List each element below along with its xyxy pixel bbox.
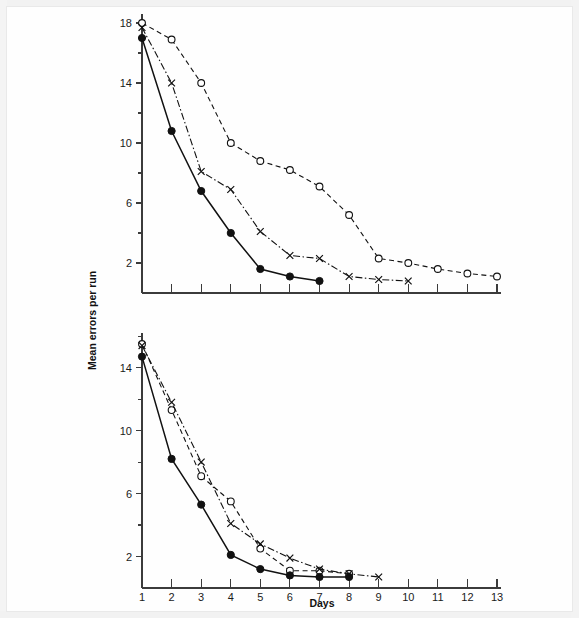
x-axis-tick-label: 10 xyxy=(402,591,414,603)
x-axis-tick-label: 13 xyxy=(491,591,503,603)
data-point-open-circle xyxy=(405,260,412,267)
data-point-filled-circle xyxy=(257,566,264,573)
data-point-cross xyxy=(375,276,382,283)
data-point-open-circle xyxy=(198,80,205,87)
y-axis-tick-label: 14 xyxy=(120,362,132,374)
x-axis-tick-label: 3 xyxy=(198,591,204,603)
data-point-open-circle xyxy=(257,158,264,165)
data-point-open-circle xyxy=(494,273,501,280)
series-line-filled-circle-group xyxy=(142,357,349,577)
data-point-filled-circle xyxy=(168,127,175,134)
data-point-cross xyxy=(168,399,175,406)
data-point-cross xyxy=(257,228,264,235)
learning-curve-figure: Mean errors per run 26101418 26101412345… xyxy=(0,0,579,618)
data-point-filled-circle xyxy=(286,273,293,280)
data-point-filled-circle xyxy=(198,501,205,508)
data-point-cross xyxy=(287,252,294,259)
data-point-filled-circle xyxy=(257,265,264,272)
y-axis-tick-label: 6 xyxy=(126,197,132,209)
data-point-open-circle xyxy=(434,266,441,273)
y-axis-tick-label: 18 xyxy=(120,17,132,29)
upper-chart-panel: 26101418 xyxy=(120,14,501,293)
y-axis-title: Mean errors per run xyxy=(86,271,98,370)
x-axis-tick-label: 12 xyxy=(461,591,473,603)
x-axis-tick-label: 5 xyxy=(257,591,263,603)
y-axis-tick-label: 14 xyxy=(120,77,132,89)
data-point-open-circle xyxy=(287,167,294,174)
x-axis-tick-label: 6 xyxy=(287,591,293,603)
x-axis-title: Days xyxy=(309,597,334,609)
y-axis-tick-label: 2 xyxy=(126,551,132,563)
x-axis-tick-label: 9 xyxy=(376,591,382,603)
figure-page: Mean errors per run 26101418 26101412345… xyxy=(0,0,579,618)
data-point-filled-circle xyxy=(138,34,145,41)
data-point-cross xyxy=(227,186,234,193)
data-point-cross xyxy=(168,80,175,87)
data-point-filled-circle xyxy=(227,229,234,236)
data-point-filled-circle xyxy=(227,551,234,558)
x-axis-tick-label: 1 xyxy=(139,591,145,603)
y-axis-tick-label: 10 xyxy=(120,425,132,437)
data-point-open-circle xyxy=(375,255,382,262)
data-point-open-circle xyxy=(198,473,205,480)
data-point-filled-circle xyxy=(138,353,145,360)
data-point-cross xyxy=(198,459,205,466)
data-point-filled-circle xyxy=(316,573,323,580)
data-point-filled-circle xyxy=(168,455,175,462)
data-point-open-circle xyxy=(464,270,471,277)
data-point-filled-circle xyxy=(286,572,293,579)
series-line-filled-circle-group xyxy=(142,38,320,281)
data-point-cross xyxy=(198,168,205,175)
data-point-open-circle xyxy=(227,498,234,505)
y-axis-tick-label: 10 xyxy=(120,137,132,149)
data-point-open-circle xyxy=(346,212,353,219)
data-point-filled-circle xyxy=(316,277,323,284)
data-point-filled-circle xyxy=(346,573,353,580)
data-point-open-circle xyxy=(316,183,323,190)
y-axis-tick-label: 2 xyxy=(126,257,132,269)
data-point-open-circle xyxy=(168,36,175,43)
x-axis-tick-label: 2 xyxy=(169,591,175,603)
series-line-cross-group xyxy=(142,346,379,577)
lower-chart-panel: 26101412345678910111213 xyxy=(120,333,503,603)
x-axis-tick-label: 4 xyxy=(228,591,234,603)
data-point-cross xyxy=(287,555,294,562)
y-axis-tick-label: 6 xyxy=(126,488,132,500)
series-line-open-circle-group xyxy=(142,23,497,277)
data-point-open-circle xyxy=(227,140,234,147)
data-point-filled-circle xyxy=(198,187,205,194)
data-point-cross xyxy=(227,520,234,527)
x-axis-tick-label: 11 xyxy=(432,591,443,603)
x-axis-tick-label: 8 xyxy=(346,591,352,603)
